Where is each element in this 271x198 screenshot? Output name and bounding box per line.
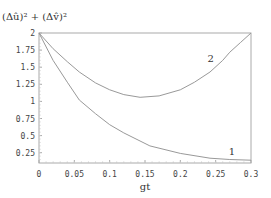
x-tick-label: 0.15 xyxy=(135,170,154,179)
plot-curves xyxy=(39,33,251,160)
x-axis-title: gt xyxy=(140,181,150,192)
x-tick-label: 0.3 xyxy=(244,170,259,179)
x-tick-label: 0.25 xyxy=(206,170,225,179)
y-tick-label: 1.25 xyxy=(16,80,35,89)
y-tick-label: 1 xyxy=(30,97,35,106)
x-tick-label: 0 xyxy=(37,170,42,179)
curve-label-1: 1 xyxy=(229,146,235,157)
x-tick-label: 0.05 xyxy=(65,170,84,179)
y-axis-title: (Δû)² + (Δv̂)² xyxy=(2,11,67,22)
y-tick-label: 0.75 xyxy=(16,115,35,124)
x-tick-label: 0.1 xyxy=(102,170,117,179)
y-tick-label: 1.5 xyxy=(21,63,36,72)
x-tick-label: 0.2 xyxy=(173,170,188,179)
y-tick-label: 0.5 xyxy=(21,132,36,141)
y-tick-label: 2 xyxy=(30,29,35,38)
y-axis: 0.250.50.7511.251.51.752 xyxy=(16,29,42,160)
y-tick-label: 0.25 xyxy=(16,149,35,158)
curve-labels: 12 xyxy=(208,53,236,157)
y-tick-label: 1.75 xyxy=(16,46,35,55)
line-chart: (Δû)² + (Δv̂)² 0.250.50.7511.251.51.752 … xyxy=(0,0,271,198)
curve-label-2: 2 xyxy=(208,53,214,64)
